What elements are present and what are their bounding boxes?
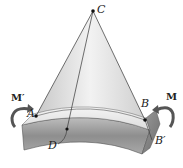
label-M-prime: M′ bbox=[11, 93, 25, 103]
bending-diagram: C A B B′ D M M′ bbox=[0, 0, 183, 168]
curvature-sector bbox=[36, 11, 145, 120]
label-B: B bbox=[141, 98, 149, 109]
label-A: A bbox=[27, 108, 35, 119]
point-D bbox=[65, 127, 68, 130]
label-M: M bbox=[166, 92, 177, 102]
point-C bbox=[91, 9, 95, 13]
label-B-prime: B′ bbox=[155, 135, 166, 146]
label-C: C bbox=[97, 4, 105, 15]
point-B bbox=[143, 118, 147, 122]
label-D: D bbox=[48, 140, 57, 151]
